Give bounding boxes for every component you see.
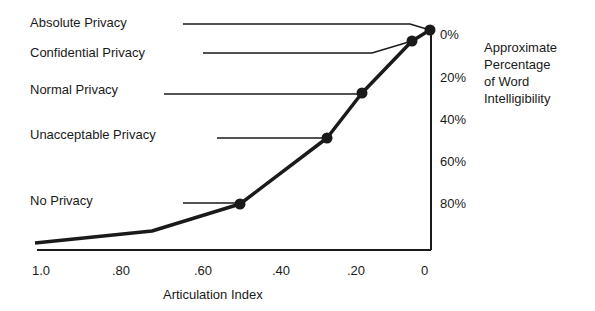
x-tick-0-40: .40 xyxy=(272,263,290,278)
marker-confidential-privacy xyxy=(407,36,418,47)
y-axis-title-line-4: Intelligibility xyxy=(484,90,557,107)
y-axis-title: Approximate Percentage of Word Intelligi… xyxy=(484,39,557,107)
label-normal-privacy: Normal Privacy xyxy=(30,82,118,97)
marker-no-privacy xyxy=(235,199,246,210)
label-no-privacy: No Privacy xyxy=(30,193,93,208)
x-axis-title: Articulation Index xyxy=(163,287,263,302)
y-tick-0: 0% xyxy=(440,27,459,42)
x-tick-0-60: .60 xyxy=(194,263,212,278)
y-axis-title-line-1: Approximate xyxy=(484,39,557,56)
label-confidential-privacy: Confidential Privacy xyxy=(30,45,145,60)
marker-absolute-privacy xyxy=(425,25,436,36)
x-tick-0-20: .20 xyxy=(347,263,365,278)
leader-confidential-privacy xyxy=(203,41,412,53)
y-tick-40: 40% xyxy=(440,112,466,127)
y-axis-title-line-3: of Word xyxy=(484,73,557,90)
marker-unacceptable-privacy xyxy=(322,133,333,144)
y-tick-20: 20% xyxy=(440,70,466,85)
x-tick-0-80: .80 xyxy=(112,263,130,278)
x-tick-1-0: 1.0 xyxy=(32,263,50,278)
y-tick-80: 80% xyxy=(440,196,466,211)
leader-absolute-privacy xyxy=(183,24,430,30)
label-unacceptable-privacy: Unacceptable Privacy xyxy=(30,127,156,142)
x-tick-0: 0 xyxy=(421,263,428,278)
y-tick-60: 60% xyxy=(440,154,466,169)
marker-normal-privacy xyxy=(357,88,368,99)
label-absolute-privacy: Absolute Privacy xyxy=(30,15,127,30)
y-axis-title-line-2: Percentage xyxy=(484,56,557,73)
privacy-intelligibility-chart: Absolute Privacy Confidential Privacy No… xyxy=(0,0,595,311)
